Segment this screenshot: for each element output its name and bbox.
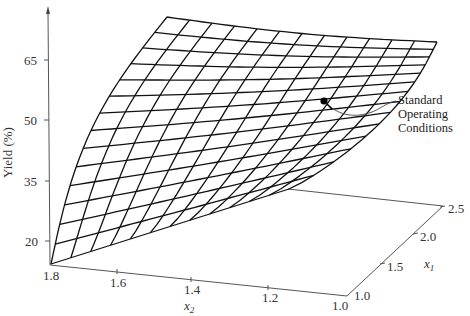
mesh-line xyxy=(230,39,370,208)
standard-operating-conditions-annotation: Standard Operating Conditions xyxy=(320,93,453,135)
x2-axis: 1.8 1.6 1.4 1.2 1.0 x2 xyxy=(43,265,348,315)
annotation-line-3: Conditions xyxy=(398,121,453,135)
x1-tick-2.5: 2.5 xyxy=(448,201,464,216)
mesh-line xyxy=(91,102,400,131)
mesh-line xyxy=(190,35,325,220)
x1-tick-2.0: 2.0 xyxy=(420,229,436,244)
annotation-line-1: Standard xyxy=(398,93,443,107)
z-axis-title: Yield (%) xyxy=(0,127,15,178)
standard-operating-point-icon xyxy=(320,97,327,104)
yield-surface-chart: 65 50 35 20 Yield (%) 1.8 1.6 1.4 1.2 1.… xyxy=(0,0,470,316)
mesh-line xyxy=(131,64,425,68)
x2-tick-1.2: 1.2 xyxy=(262,290,278,305)
mesh-line xyxy=(60,162,334,225)
z-axis-arrow-icon xyxy=(46,6,50,14)
response-surface-mesh xyxy=(51,17,437,264)
z-tick-35: 35 xyxy=(24,174,37,189)
mesh-line xyxy=(83,112,390,148)
mesh-line xyxy=(100,91,408,113)
mesh-line xyxy=(55,175,313,244)
z-tick-20: 20 xyxy=(25,234,38,249)
x2-tick-1.4: 1.4 xyxy=(184,282,201,297)
x1-axis: 1.0 1.5 2.0 2.5 x1 xyxy=(288,189,464,303)
mesh-line xyxy=(109,82,414,96)
z-tick-50: 50 xyxy=(24,113,37,128)
x2-axis-title: x2 xyxy=(183,298,195,315)
x1-tick-1.5: 1.5 xyxy=(387,259,403,274)
mesh-line xyxy=(210,37,347,214)
z-tick-65: 65 xyxy=(24,53,37,68)
x1-tick-1.0: 1.0 xyxy=(354,288,370,303)
x1-axis-title: x1 xyxy=(423,256,434,273)
x2-tick-1.8: 1.8 xyxy=(43,268,59,283)
mesh-line xyxy=(51,17,167,264)
z-axis: 65 50 35 20 Yield (%) xyxy=(0,6,50,265)
x2-tick-1.6: 1.6 xyxy=(110,275,127,290)
x2-tick-1.0: 1.0 xyxy=(332,298,348,313)
mesh-line xyxy=(120,73,421,80)
annotation-line-2: Operating xyxy=(398,107,449,121)
